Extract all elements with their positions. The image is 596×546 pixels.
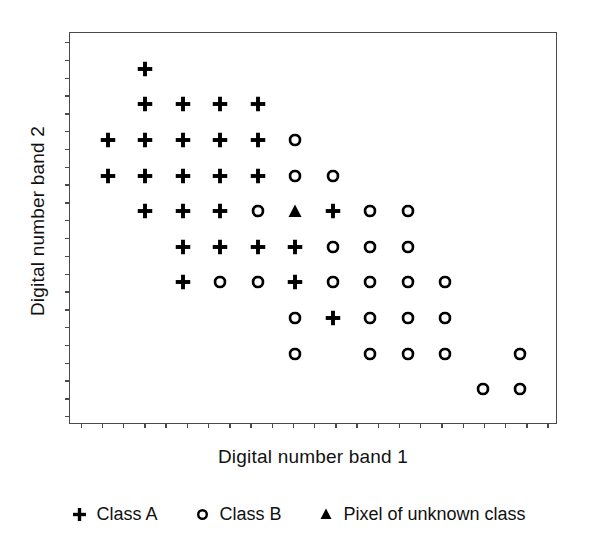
y-axis-tick xyxy=(65,78,70,79)
plus-marker-icon xyxy=(250,132,265,147)
x-axis-tick xyxy=(250,423,251,428)
plus-marker-icon xyxy=(100,168,115,183)
circle-marker-icon xyxy=(289,169,302,182)
legend-item: Class A xyxy=(70,504,157,525)
y-axis-tick xyxy=(65,398,70,399)
plus-marker-icon xyxy=(138,132,153,147)
x-axis-tick xyxy=(293,423,294,428)
y-axis-tick xyxy=(65,113,70,114)
y-axis-tick xyxy=(65,42,70,43)
x-axis-tick xyxy=(314,423,315,428)
plus-marker-icon xyxy=(175,97,190,112)
plus-marker-icon xyxy=(288,239,303,254)
y-axis-title: Digital number band 2 xyxy=(27,61,49,381)
circle-marker-icon xyxy=(364,240,377,253)
circle-marker-icon xyxy=(364,276,377,289)
y-axis-tick xyxy=(65,416,70,417)
circle-marker-icon xyxy=(289,312,302,325)
plus-marker-icon xyxy=(213,204,228,219)
triangle-marker-icon xyxy=(288,204,302,218)
plus-marker-icon xyxy=(250,97,265,112)
y-axis-tick xyxy=(65,220,70,221)
legend-item: Class B xyxy=(193,504,281,525)
plus-marker-icon xyxy=(175,204,190,219)
x-axis-tick xyxy=(144,423,145,428)
x-axis-tick xyxy=(272,423,273,428)
y-axis-tick xyxy=(65,309,70,310)
circle-marker-icon xyxy=(439,312,452,325)
circle-marker-icon xyxy=(289,347,302,360)
y-axis-tick xyxy=(65,238,70,239)
circle-marker-icon xyxy=(326,169,339,182)
x-axis-tick xyxy=(441,423,442,428)
circle-marker-icon xyxy=(364,205,377,218)
y-axis-tick xyxy=(65,167,70,168)
x-axis-tick xyxy=(229,423,230,428)
plus-marker-icon xyxy=(138,204,153,219)
plot-area xyxy=(70,33,556,423)
circle-marker-icon xyxy=(214,276,227,289)
scatter-plot-figure: Digital number band 2 Digital number ban… xyxy=(0,0,596,546)
y-axis-tick xyxy=(65,380,70,381)
x-axis-tick xyxy=(378,423,379,428)
plus-marker-icon xyxy=(175,168,190,183)
circle-icon xyxy=(193,505,211,523)
x-axis-tick xyxy=(356,423,357,428)
y-axis-tick xyxy=(65,345,70,346)
y-axis-tick xyxy=(65,202,70,203)
y-axis-tick xyxy=(65,363,70,364)
plus-marker-icon xyxy=(325,204,340,219)
circle-marker-icon xyxy=(439,276,452,289)
y-axis-tick xyxy=(65,149,70,150)
triangle-icon xyxy=(317,505,335,523)
x-axis-tick xyxy=(484,423,485,428)
circle-marker-icon xyxy=(289,133,302,146)
plot-frame xyxy=(69,32,557,424)
circle-marker-icon xyxy=(251,276,264,289)
plus-marker-icon xyxy=(213,97,228,112)
circle-marker-icon xyxy=(439,347,452,360)
circle-marker-icon xyxy=(251,205,264,218)
x-axis-tick xyxy=(208,423,209,428)
circle-marker-icon xyxy=(476,383,489,396)
plus-marker-icon xyxy=(138,97,153,112)
plus-marker-icon xyxy=(100,132,115,147)
plus-marker-icon xyxy=(288,275,303,290)
legend-item: Pixel of unknown class xyxy=(317,504,525,525)
y-axis-tick xyxy=(65,60,70,61)
x-axis-tick xyxy=(399,423,400,428)
x-axis-tick xyxy=(335,423,336,428)
x-axis-tick xyxy=(463,423,464,428)
plus-marker-icon xyxy=(175,275,190,290)
circle-marker-icon xyxy=(401,276,414,289)
x-axis-tick xyxy=(526,423,527,428)
plus-marker-icon xyxy=(250,168,265,183)
plus-marker-icon xyxy=(213,239,228,254)
plus-marker-icon xyxy=(250,239,265,254)
legend-item-label: Pixel of unknown class xyxy=(343,504,525,525)
circle-marker-icon xyxy=(514,383,527,396)
y-axis-tick xyxy=(65,291,70,292)
y-axis-tick xyxy=(65,327,70,328)
x-axis-title: Digital number band 1 xyxy=(69,446,557,468)
y-axis-tick xyxy=(65,184,70,185)
circle-marker-icon xyxy=(401,205,414,218)
x-axis-tick xyxy=(165,423,166,428)
x-axis-tick xyxy=(547,423,548,428)
x-axis-tick xyxy=(81,423,82,428)
plus-marker-icon xyxy=(138,168,153,183)
y-axis-tick xyxy=(65,274,70,275)
plus-marker-icon xyxy=(213,168,228,183)
circle-marker-icon xyxy=(364,347,377,360)
plus-marker-icon xyxy=(138,61,153,76)
legend-item-label: Class A xyxy=(96,504,157,525)
y-axis-tick xyxy=(65,131,70,132)
plus-marker-icon xyxy=(175,132,190,147)
legend-item-label: Class B xyxy=(219,504,281,525)
circle-marker-icon xyxy=(401,240,414,253)
y-axis-tick xyxy=(65,256,70,257)
x-axis-tick xyxy=(420,423,421,428)
plus-marker-icon xyxy=(175,239,190,254)
circle-marker-icon xyxy=(514,347,527,360)
x-axis-tick xyxy=(102,423,103,428)
